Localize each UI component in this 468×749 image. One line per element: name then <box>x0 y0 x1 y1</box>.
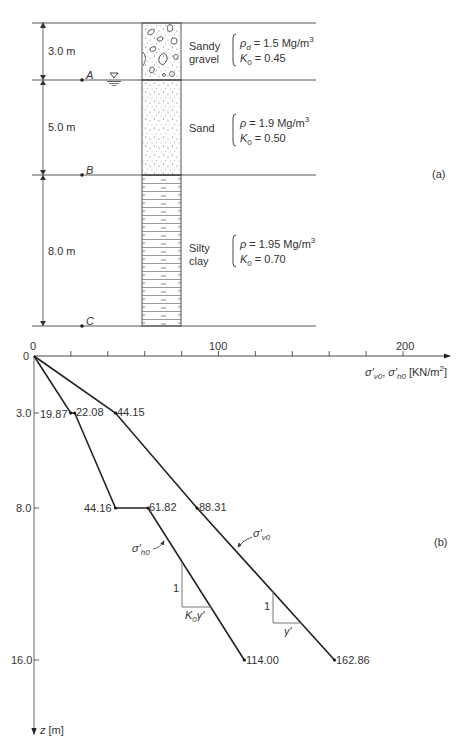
sand-column <box>142 80 181 175</box>
layer-1-name: Sandy gravel <box>189 40 220 66</box>
slope-v-run: γ′ <box>284 625 292 638</box>
y-tick-16: 16.0 <box>11 654 32 667</box>
y-axis-ticks <box>34 413 39 660</box>
water-table-icon <box>107 73 121 86</box>
value-v-8: 88.31 <box>199 501 227 514</box>
y-tick-8: 8.0 <box>16 502 31 515</box>
slope-v-rise: 1 <box>264 600 270 613</box>
layer-1-density: ρd = 1.5 Mg/m3 <box>240 33 314 54</box>
x-tick-0: 0 <box>30 340 36 353</box>
x-tick-200: 200 <box>396 340 414 353</box>
layer-2-density: ρ = 1.9 Mg/m3 <box>240 113 309 130</box>
y-tick-3: 3.0 <box>16 407 31 420</box>
point-c-label: C <box>86 315 94 328</box>
slope-h-run: K0γ′ <box>185 609 204 626</box>
point-b-marker <box>80 173 84 177</box>
value-v-16: 162.86 <box>336 654 370 667</box>
brace-layer-2 <box>233 114 236 146</box>
v0-leader <box>238 537 252 547</box>
slope-h-rise: 1 <box>173 582 179 595</box>
layer-3-name: Silty clay <box>189 242 210 268</box>
x-axis-label: σ′v0, σ′h0 [KN/m2] <box>365 362 447 383</box>
layer-1-k0: K0 = 0.45 <box>240 52 286 69</box>
clay-column <box>142 175 181 326</box>
layer-3-thickness: 8.0 m <box>48 245 76 258</box>
brace-layer-1 <box>233 34 236 66</box>
value-h-16: 114.00 <box>246 654 279 667</box>
x-tick-100: 100 <box>209 340 227 353</box>
x-axis-ticks <box>71 351 403 356</box>
value-h-8-right: 61.82 <box>149 501 177 514</box>
panel-b-label: (b) <box>434 536 447 549</box>
value-v-3: 44.15 <box>117 406 145 419</box>
point-a-label: A <box>86 69 93 82</box>
layer-3-density: ρ = 1.95 Mg/m3 <box>240 234 315 251</box>
sigma-h0-label: σ′h0 <box>132 542 150 559</box>
y-axis-label: z [m] <box>40 724 64 737</box>
layer-2-k0: K0 = 0.50 <box>240 132 286 149</box>
h0-leader <box>153 541 164 549</box>
y-tick-0: 0 <box>23 350 29 363</box>
value-h-8-left: 44.16 <box>84 502 112 515</box>
layer-3-k0: K0 = 0.70 <box>240 253 286 270</box>
panel-a-label: (a) <box>432 168 445 181</box>
layer-2-thickness: 5.0 m <box>48 121 76 134</box>
point-a-marker <box>80 78 84 82</box>
sigma-v0-label: σ′v0 <box>253 527 270 544</box>
brace-layer-3 <box>233 235 236 267</box>
layer-2-name: Sand <box>189 122 215 135</box>
point-b-label: B <box>86 164 93 177</box>
point-c-marker <box>80 324 84 328</box>
slope-triangle-v0 <box>273 590 302 623</box>
layer-1-thickness: 3.0 m <box>48 45 76 58</box>
value-h-3-left: 19.87 <box>40 408 68 421</box>
value-h-3-right: 22.08 <box>76 406 104 419</box>
